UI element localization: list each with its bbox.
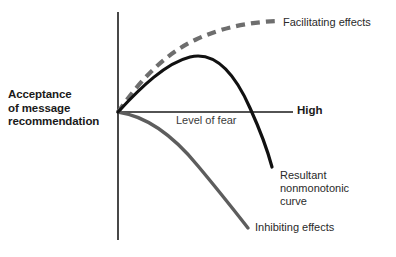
- series-line-inhibiting-effects: [118, 112, 248, 228]
- series-label-inhibiting-effects: Inhibiting effects: [255, 221, 334, 234]
- y-axis-title: Acceptance of message recommendation: [8, 88, 112, 129]
- fear-appeal-chart-figure: Acceptance of message recommendation Lev…: [0, 0, 396, 257]
- x-axis-title: Level of fear: [176, 114, 237, 127]
- series-line-facilitating-effects: [118, 21, 277, 112]
- x-axis-high-tick-label: High: [297, 104, 323, 118]
- series-label-facilitating-effects: Facilitating effects: [283, 16, 371, 29]
- series-label-resultant-nonmonotonic-curve: Resultant nonmonotonic curve: [280, 169, 390, 208]
